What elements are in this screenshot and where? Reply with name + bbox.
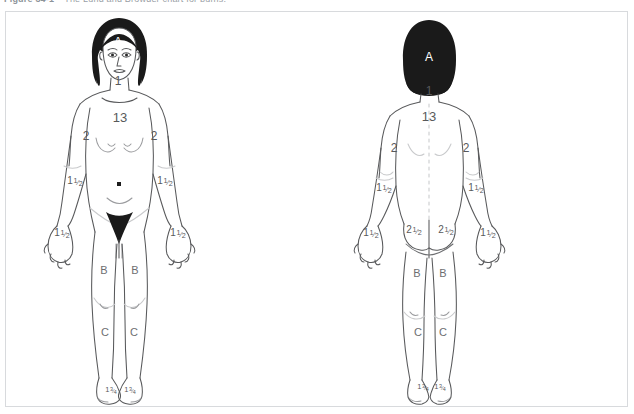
back-left-forearm-label: 11⁄2 [468, 183, 483, 193]
front-right-thigh-label: B [100, 265, 107, 276]
back-head-label: A [425, 51, 433, 63]
front-head-label: A [114, 36, 122, 48]
figure-panel: A1132211⁄211⁄211⁄211⁄2BBCC13⁄413⁄4 [5, 11, 628, 407]
anterior-body-diagram: A1132211⁄211⁄211⁄211⁄2BBCC13⁄413⁄4 [12, 12, 312, 406]
back-left-upper-arm-label: 2 [463, 142, 470, 154]
back-left-buttock-label: 21⁄2 [438, 225, 453, 235]
front-left-forearm-label: 11⁄2 [157, 176, 172, 186]
posterior-body-drawing [318, 12, 618, 406]
back-right-leg-label: C [414, 327, 422, 338]
back-left-hand-label: 11⁄2 [480, 228, 495, 238]
back-right-upper-arm-label: 2 [391, 142, 398, 154]
back-left-thigh-label: B [439, 268, 446, 279]
front-right-hand-label: 11⁄2 [54, 228, 69, 238]
front-right-upper-arm-label: 2 [83, 130, 90, 142]
back-left-foot-label: 13⁄4 [434, 383, 446, 391]
back-back-label: 13 [422, 110, 436, 123]
front-right-forearm-label: 11⁄2 [67, 176, 82, 186]
figure-caption-text: The Lund and Browder chart for burns. [64, 0, 226, 4]
front-left-upper-arm-label: 2 [151, 130, 158, 142]
front-left-hand-label: 11⁄2 [170, 228, 185, 238]
back-neck-label: 1 [426, 85, 433, 97]
posterior-body-diagram: A1132211⁄211⁄221⁄221⁄211⁄211⁄2BBCC13⁄413… [318, 12, 618, 406]
front-right-leg-label: C [101, 327, 109, 338]
back-right-hand-label: 11⁄2 [363, 228, 378, 238]
front-right-foot-label: 13⁄4 [105, 386, 117, 394]
front-neck-label: 1 [115, 75, 122, 87]
figure-page: Figure 34-1The Lund and Browder chart fo… [0, 0, 634, 414]
front-left-thigh-label: B [131, 265, 138, 276]
back-right-buttock-label: 21⁄2 [406, 225, 421, 235]
back-right-forearm-label: 11⁄2 [376, 183, 391, 193]
anterior-body-drawing [12, 12, 312, 406]
figure-number: Figure 34-1 [4, 0, 54, 4]
figure-caption: Figure 34-1The Lund and Browder chart fo… [4, 0, 424, 6]
back-right-thigh-label: B [413, 268, 420, 279]
front-left-foot-label: 13⁄4 [124, 386, 136, 394]
back-right-foot-label: 13⁄4 [417, 383, 429, 391]
front-left-leg-label: C [130, 327, 138, 338]
front-trunk-label: 13 [113, 111, 127, 124]
back-left-leg-label: C [439, 327, 447, 338]
